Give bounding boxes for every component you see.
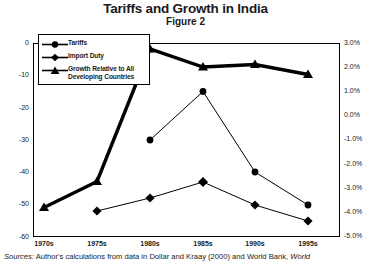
diamond-marker-icon: [42, 53, 68, 62]
figure-number: Figure 2: [0, 16, 371, 28]
source-lead: Sources:: [4, 252, 34, 261]
y-right-tick-0: 3.0%: [344, 39, 371, 47]
y-right-tick-4: -1.0%: [344, 135, 371, 143]
source-tail: World: [290, 252, 310, 261]
y-right-tick-2: 1.0%: [344, 87, 371, 95]
legend-item-tariffs: Tariffs: [42, 39, 145, 49]
chart-legend: Tariffs Import Duty Growth Relative to A…: [38, 34, 150, 85]
y-right-tick-5: -2.0%: [344, 160, 371, 168]
x-tick-1985s: 1985s: [183, 240, 223, 248]
x-tick-1970s: 1970s: [24, 240, 64, 248]
page-title: Tariffs and Growth in India: [0, 1, 371, 16]
y-right-tick-7: -4.0%: [344, 208, 371, 216]
y-right-tick-6: -3.0%: [344, 184, 371, 192]
series-import-duty: [92, 177, 312, 226]
source-body: Author's calculations from data in Dolla…: [34, 252, 290, 261]
y-left-tick-5: -50: [3, 200, 29, 208]
x-tick-1990s: 1990s: [235, 240, 275, 248]
x-tick-1980s: 1980s: [130, 240, 170, 248]
circle-marker-icon: [42, 40, 68, 49]
figure-container: Tariffs and Growth in India Figure 2 0 -…: [0, 0, 371, 268]
legend-item-import-duty: Import Duty: [42, 52, 145, 62]
y-left-tick-0: 0: [3, 39, 29, 47]
series-tariffs: [147, 88, 312, 208]
y-right-tick-3: 0.0%: [344, 111, 371, 119]
legend-label-import-duty: Import Duty: [68, 52, 104, 60]
source-note: Sources: Author's calculations from data…: [4, 252, 369, 262]
legend-item-growth: Growth Relative to All Developing Countr…: [42, 65, 145, 80]
x-tick-1995s: 1995s: [288, 240, 328, 248]
y-left-tick-2: -20: [3, 104, 29, 112]
y-right-tick-1: 2.0%: [344, 63, 371, 71]
y-right-tick-8: -5.0%: [344, 232, 371, 240]
triangle-marker-icon: [42, 66, 68, 75]
legend-label-growth: Growth Relative to All Developing Countr…: [68, 65, 145, 80]
x-tick-1975s: 1975s: [77, 240, 117, 248]
y-left-tick-1: -10: [3, 71, 29, 79]
y-left-tick-4: -40: [3, 168, 29, 176]
legend-label-tariffs: Tariffs: [68, 39, 87, 47]
y-left-tick-3: -30: [3, 136, 29, 144]
